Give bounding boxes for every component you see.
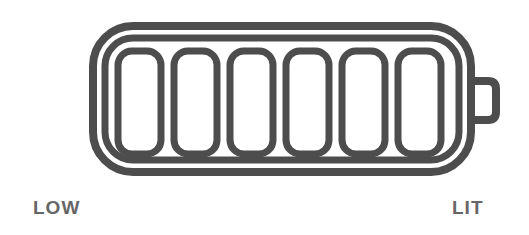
battery-cell-2 xyxy=(174,51,217,154)
lit-label: LIT xyxy=(452,197,484,219)
battery-cell-4 xyxy=(286,51,329,154)
battery-cell-5 xyxy=(342,51,385,154)
battery-cell-3 xyxy=(230,51,273,154)
low-label: LOW xyxy=(33,197,80,219)
battery-cell-6 xyxy=(398,51,441,154)
battery-cell-1 xyxy=(118,51,161,154)
battery-cells xyxy=(118,51,441,154)
